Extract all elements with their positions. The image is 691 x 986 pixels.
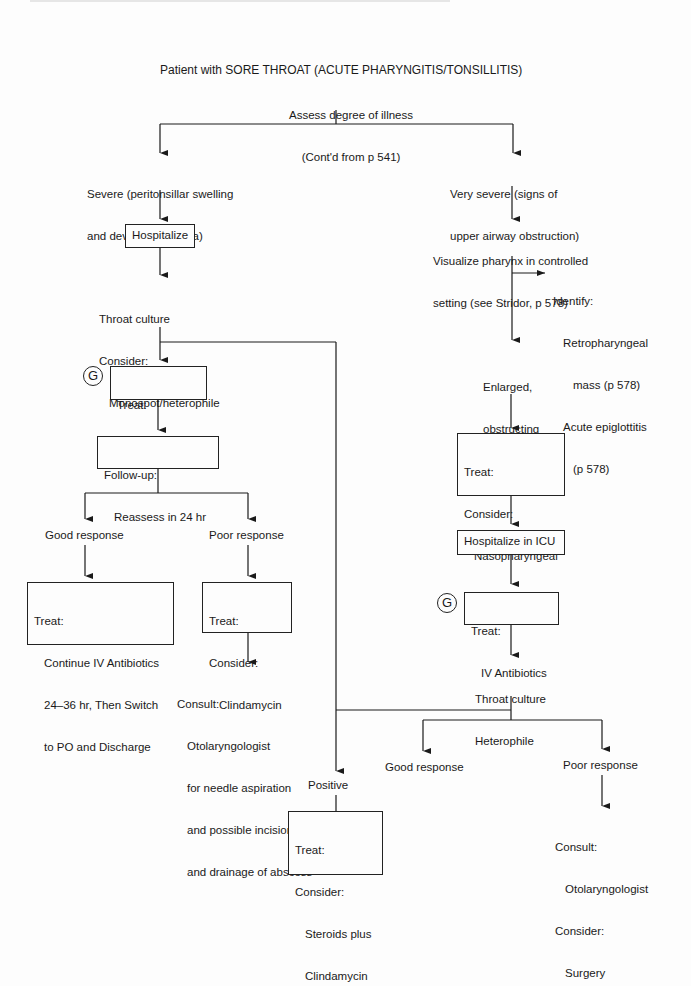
throat-culture-line: Throat culture — [475, 692, 546, 706]
surgery-line: Surgery — [555, 966, 648, 980]
clindamycin-line: Clindamycin — [295, 969, 376, 983]
epiglottitis-page-line: (p 578) — [553, 462, 648, 476]
very-severe-line-1: Very severe (signs of — [450, 187, 579, 201]
mass-line: mass (p 578) — [553, 378, 648, 392]
treat-label: Treat: — [295, 843, 376, 857]
hospitalize-box[interactable]: Hospitalize — [125, 224, 195, 248]
consider-line: Consider: — [555, 924, 648, 938]
consider-label: Consider: — [295, 885, 376, 899]
consult-surgery-label: Consult: Otolaryngologist Consider: Surg… — [555, 812, 648, 986]
epiglottitis-line: Acute epiglottitis — [553, 420, 648, 434]
continue-iv-line: Continue IV Antibiotics — [34, 656, 167, 670]
heterophile-line: Heterophile — [475, 734, 546, 748]
consult-label: Consult: — [177, 697, 312, 711]
positive-line: Positive — [308, 778, 359, 792]
steroids-clindamycin-box[interactable]: Treat: Consider: Steroids plus Clindamyc… — [288, 811, 383, 875]
retropharyngeal-line: Retropharyngeal — [553, 336, 648, 350]
treat-label: Treat: — [464, 465, 558, 479]
consider-label: Consider: — [209, 656, 285, 670]
discharge-line: to PO and Discharge — [34, 740, 167, 754]
assess-degree-label: Assess degree of illness (Cont'd from p … — [276, 80, 426, 178]
treat-iv-antibiotics-box-right[interactable]: Treat: IV Antibiotics — [464, 592, 559, 625]
treat-label: Treat: — [471, 624, 552, 638]
reassess-label: Reassess in 24 hr — [104, 510, 212, 524]
steroids-line: Steroids plus — [295, 927, 376, 941]
good-response-bottom: Good response — [385, 760, 464, 774]
guideline-g-icon: G — [83, 366, 103, 386]
consult-line: Consult: — [555, 840, 648, 854]
identify-line: Identify: — [553, 294, 648, 308]
assess-line-2: (Cont'd from p 541) — [276, 150, 426, 164]
poor-response-treat-box[interactable]: Treat: Consider: Clindamycin — [202, 582, 292, 633]
enlarged-line: Enlarged, — [483, 380, 539, 394]
flowchart-title: Patient with SORE THROAT (ACUTE PHARYNGI… — [160, 63, 522, 77]
treat-label: Treat: — [209, 614, 285, 628]
poor-response-bottom: Poor response — [563, 758, 638, 772]
treat-label: Treat: — [117, 398, 200, 412]
assess-line-1: Assess degree of illness — [276, 108, 426, 122]
identify-label: Identify: Retropharyngeal mass (p 578) A… — [553, 266, 648, 490]
treat-iv-antibiotics-box-left[interactable]: Treat: IV Antibiotics — [110, 366, 207, 400]
hospitalize-icu-box[interactable]: Hospitalize in ICU — [457, 530, 565, 555]
consider-label: Consider: — [464, 507, 558, 521]
needle-aspiration-line: for needle aspiration — [177, 781, 312, 795]
otolaryngologist-line: Otolaryngologist — [177, 739, 312, 753]
follow-up-box[interactable]: Follow-up: Reassess in 24 hr — [97, 436, 219, 469]
treat-nasopharyngeal-airway-box[interactable]: Treat: Consider: Nasopharyngeal Airway — [457, 433, 565, 496]
poor-response-left: Poor response — [209, 528, 284, 542]
otolaryngologist-line: Otolaryngologist — [555, 882, 648, 896]
throat-culture-heterophile-label: Throat culture Heterophile — [475, 664, 546, 762]
good-response-treat-box[interactable]: Treat: Continue IV Antibiotics 24–36 hr,… — [27, 582, 174, 645]
good-response-left: Good response — [45, 528, 124, 542]
treat-label: Treat: — [34, 614, 167, 628]
throat-culture-line: Throat culture — [99, 312, 220, 326]
severe-line-1: Severe (peritonsillar swelling — [87, 187, 233, 201]
follow-up-label: Follow-up: — [104, 468, 212, 482]
switch-line: 24–36 hr, Then Switch — [34, 698, 167, 712]
guideline-g-icon: G — [437, 593, 457, 613]
